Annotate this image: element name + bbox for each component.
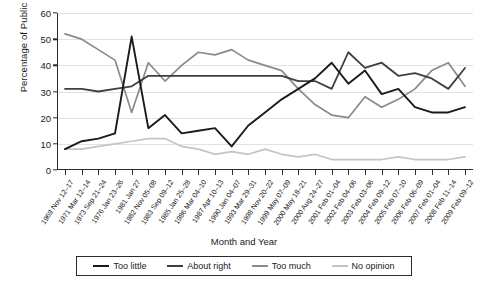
legend-item-no-opinion[interactable]: No opinion xyxy=(332,261,395,271)
x-tick-mark xyxy=(98,170,99,175)
x-tick-mark xyxy=(82,170,83,175)
legend-swatch-icon xyxy=(167,265,183,267)
x-tick-mark xyxy=(232,170,233,175)
x-tick-mark xyxy=(182,170,183,175)
x-axis-title: Month and Year xyxy=(0,236,488,247)
legend-item-too-much[interactable]: Too much xyxy=(252,261,311,271)
x-tick-mark xyxy=(165,170,166,175)
legend-item-about-right[interactable]: About right xyxy=(167,261,231,271)
legend-swatch-icon xyxy=(252,265,268,267)
x-tick-mark xyxy=(115,170,116,175)
chart-legend: Too littleAbout rightToo muchNo opinion xyxy=(76,256,412,276)
x-tick-mark xyxy=(432,170,433,175)
x-tick-mark xyxy=(448,170,449,175)
plot-area: 0102030405060 xyxy=(57,13,473,170)
x-tick-mark xyxy=(465,170,466,175)
x-tick-mark xyxy=(198,170,199,175)
x-tick-mark xyxy=(332,170,333,175)
x-tick-mark xyxy=(382,170,383,175)
x-tick-mark xyxy=(348,170,349,175)
line-chart: Percentage of Public 0102030405060 1969 … xyxy=(0,0,488,288)
x-tick-mark xyxy=(315,170,316,175)
x-tick-mark xyxy=(132,170,133,175)
legend-label: Too little xyxy=(113,261,146,271)
legend-label: About right xyxy=(187,261,231,271)
x-tick-mark xyxy=(148,170,149,175)
legend-label: Too much xyxy=(272,261,311,271)
x-tick-mark xyxy=(282,170,283,175)
legend-item-too-little[interactable]: Too little xyxy=(93,261,146,271)
x-tick-mark xyxy=(265,170,266,175)
x-tick-mark xyxy=(365,170,366,175)
x-tick-mark xyxy=(298,170,299,175)
plot-frame xyxy=(57,13,473,170)
legend-swatch-icon xyxy=(93,265,109,267)
x-tick-mark xyxy=(65,170,66,175)
y-axis-title: Percentage of Public xyxy=(18,0,29,133)
x-tick-mark xyxy=(398,170,399,175)
x-axis-labels: 1969 Nov 12–171971 Mar 12–141973 Sep 21–… xyxy=(57,178,473,238)
x-tick-mark xyxy=(215,170,216,175)
x-tick-mark xyxy=(248,170,249,175)
legend-label: No opinion xyxy=(352,261,395,271)
legend-swatch-icon xyxy=(332,265,348,267)
x-tick-mark xyxy=(415,170,416,175)
